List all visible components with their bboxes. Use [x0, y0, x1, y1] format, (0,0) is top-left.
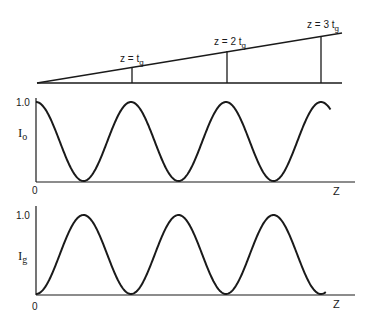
ylabel-ig: Ig: [18, 248, 27, 265]
wedge-top-line: [37, 33, 342, 83]
plot-io: 1.0 Io 0 Z: [16, 97, 355, 197]
crystal-wedge-diagram: [37, 33, 342, 83]
marker-label-3: z = 3 tg: [307, 19, 339, 33]
pendellosung-figure: z = tg z = 2 tg z = 3 tg 1.0 Io 0 Z 1.0 …: [0, 0, 373, 324]
origin-io: 0: [32, 185, 38, 196]
ytick-io: 1.0: [16, 97, 30, 108]
ytick-ig: 1.0: [16, 210, 30, 221]
plot-ig: 1.0 Ig 0 Z: [16, 206, 355, 312]
marker-label-2: z = 2 tg: [214, 36, 246, 50]
marker-label-1: z = tg: [120, 53, 144, 67]
xlabel-ig: Z: [333, 298, 340, 310]
origin-ig: 0: [32, 301, 38, 312]
xlabel-io: Z: [333, 185, 340, 197]
ig-curve: [36, 215, 326, 294]
io-curve: [36, 102, 331, 181]
ylabel-io: Io: [18, 125, 27, 142]
